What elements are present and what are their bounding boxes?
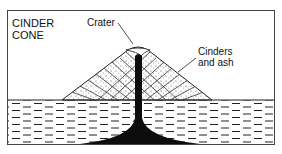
title-line-2: CONE	[12, 29, 54, 41]
cinder-cone-diagram: CINDER CONE Crater Cinders and ash	[0, 0, 282, 154]
title-line-1: CINDER	[12, 17, 54, 29]
cinders-label: Cinders and ash	[198, 46, 234, 68]
crater-label: Crater	[87, 17, 115, 28]
diagram-title: CINDER CONE	[12, 17, 54, 41]
cinders-label-line-1: Cinders	[198, 46, 234, 57]
cinders-label-line-2: and ash	[198, 57, 234, 68]
